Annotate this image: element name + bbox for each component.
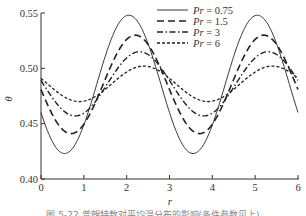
legend-label: Pr = 0.75 <box>192 5 233 16</box>
y-tick-label: 0.45 <box>20 118 38 129</box>
y-tick-label: 0.50 <box>20 63 38 74</box>
series-line-0 <box>41 15 298 153</box>
x-ticks: 0123456 <box>38 175 300 193</box>
figure-caption: 图 5-22 普朗特数对平均温分布的影响(条件参数见上) <box>0 208 306 216</box>
x-tick-label: 2 <box>124 182 129 193</box>
series-line-1 <box>41 35 298 134</box>
y-tick-label: 0.55 <box>20 8 38 19</box>
x-tick-label: 1 <box>81 182 86 193</box>
legend: Pr = 0.75Pr = 1.5Pr = 3Pr = 6 <box>157 5 233 49</box>
axes: 0.400.450.500.55 0123456 <box>20 8 301 194</box>
x-tick-label: 0 <box>38 182 43 193</box>
x-axis-label: r <box>168 195 173 207</box>
legend-label: Pr = 6 <box>192 38 220 49</box>
series-line-3 <box>41 66 298 101</box>
x-tick-label: 4 <box>210 182 216 193</box>
x-tick-label: 6 <box>295 182 300 193</box>
line-chart: 0.400.450.500.55 0123456 Pr = 0.75Pr = 1… <box>0 0 306 216</box>
data-series <box>41 15 298 153</box>
x-tick-label: 3 <box>167 182 172 193</box>
y-tick-label: 0.40 <box>20 174 38 185</box>
y-axis-label: θ <box>2 96 14 102</box>
series-line-2 <box>41 52 298 116</box>
legend-label: Pr = 1.5 <box>192 16 228 27</box>
legend-label: Pr = 3 <box>192 27 220 38</box>
x-tick-label: 5 <box>253 182 258 193</box>
